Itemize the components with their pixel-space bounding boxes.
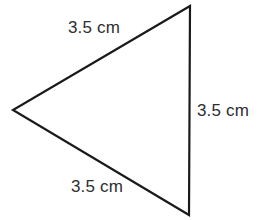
side-label-bottom: 3.5 cm [71,178,123,195]
side-label-upper-left: 3.5 cm [68,19,120,36]
side-label-right: 3.5 cm [197,102,249,119]
diagram-canvas: 3.5 cm 3.5 cm 3.5 cm [0,0,266,220]
